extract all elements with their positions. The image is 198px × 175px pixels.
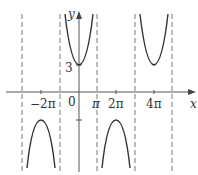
y-axis-label: y [67,7,75,21]
y-tick-3-label: 3 [65,61,73,75]
x-tick-pi-label: π [91,97,101,111]
x-tick-2pi-label: 2π [108,97,124,111]
x-tick-neg-2pi-label: −2π [30,97,56,111]
y-axis-arrow-icon [76,11,82,19]
branch-left-down [27,120,55,168]
branch-mid-down [102,120,130,168]
chart-svg: y x 0 3 −2π π 2π 4π [0,0,198,175]
x-axis-label: x [190,97,197,111]
asymptotes [22,14,172,172]
origin-label: 0 [68,95,76,109]
chart-container: y x 0 3 −2π π 2π 4π [0,0,198,175]
branch-right-up [140,14,168,65]
x-axis-arrow-icon [188,89,196,95]
x-tick-4pi-label: 4π [146,97,162,111]
